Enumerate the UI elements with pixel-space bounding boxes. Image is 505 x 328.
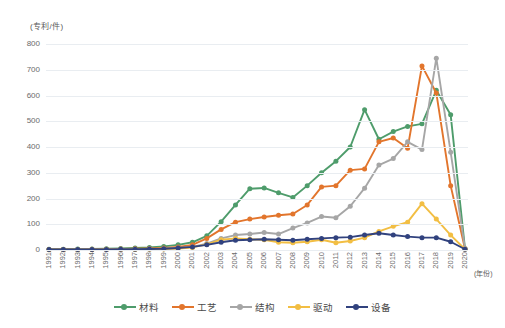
data-point: [362, 166, 367, 171]
data-point: [333, 183, 338, 188]
x-axis-tick-label: 1991: [45, 252, 53, 269]
data-point: [247, 232, 252, 237]
gridline: [46, 224, 468, 225]
legend-swatch-icon: [230, 303, 252, 312]
data-point: [448, 183, 453, 188]
x-axis-tick-label: 1998: [145, 252, 153, 269]
series-材料: [47, 88, 468, 252]
data-point: [305, 202, 310, 207]
data-point: [419, 201, 424, 206]
legend-label: 设备: [371, 300, 391, 314]
legend-item-设备[interactable]: 设备: [346, 300, 391, 314]
data-point: [405, 139, 410, 144]
x-axis-tick-label: 2012: [346, 252, 354, 269]
x-axis-tick-label: 2017: [418, 252, 426, 269]
data-point: [247, 186, 252, 191]
x-axis-tick-label: 2004: [231, 252, 239, 269]
x-axis-tick-label: 2003: [217, 252, 225, 269]
series-line: [49, 90, 465, 249]
y-axis-tick-label: 0: [10, 245, 40, 254]
data-point: [333, 215, 338, 220]
legend-item-驱动[interactable]: 驱动: [288, 300, 333, 314]
data-point: [262, 185, 267, 190]
data-point: [262, 237, 267, 242]
data-point: [319, 236, 324, 241]
series-line: [49, 66, 465, 250]
data-point: [448, 233, 453, 238]
x-axis-tick-label: 2016: [404, 252, 412, 269]
data-point: [333, 240, 338, 245]
x-axis-tick-label: 1993: [74, 252, 82, 269]
x-axis-tick-label: 2014: [375, 252, 383, 269]
data-point: [376, 163, 381, 168]
x-axis-tick-label: 2018: [432, 252, 440, 269]
gridline: [46, 250, 468, 251]
patent-trend-line-chart: (专利/件) (年份) 8007006005004003002001000 19…: [0, 0, 505, 328]
x-axis-tick-label: 2008: [289, 252, 297, 269]
y-axis-tick-label: 300: [10, 168, 40, 177]
x-axis-tick-label: 1999: [160, 252, 168, 269]
legend-item-材料[interactable]: 材料: [114, 300, 159, 314]
gridline: [46, 44, 468, 45]
data-point: [204, 236, 209, 241]
data-point: [376, 139, 381, 144]
x-axis-tick-label: 2001: [188, 252, 196, 269]
data-point: [391, 135, 396, 140]
gridline: [46, 199, 468, 200]
x-axis-title: (年份): [474, 268, 493, 278]
data-point: [305, 183, 310, 188]
data-point: [391, 129, 396, 134]
data-point: [434, 217, 439, 222]
x-axis-tick-label: 2005: [246, 252, 254, 269]
data-point: [434, 235, 439, 240]
series-line: [49, 204, 465, 250]
plot-area: [46, 44, 468, 250]
data-point: [333, 159, 338, 164]
data-point: [405, 234, 410, 239]
data-point: [348, 204, 353, 209]
legend-item-结构[interactable]: 结构: [230, 300, 275, 314]
x-axis-tick-label: 2002: [203, 252, 211, 269]
legend-label: 材料: [139, 300, 159, 314]
data-point: [305, 237, 310, 242]
data-point: [391, 233, 396, 238]
data-point: [247, 237, 252, 242]
x-axis-tick-label: 2015: [389, 252, 397, 269]
data-point: [247, 217, 252, 222]
legend-swatch-icon: [346, 303, 368, 312]
data-point: [290, 226, 295, 231]
x-axis-tick-label: 1994: [88, 252, 96, 269]
legend-label: 工艺: [197, 300, 217, 314]
data-point: [362, 186, 367, 191]
data-point: [219, 240, 224, 245]
data-point: [448, 112, 453, 117]
y-axis-tick-label: 400: [10, 142, 40, 151]
data-point: [219, 227, 224, 232]
data-point: [448, 239, 453, 244]
x-axis-tick-label: 2011: [332, 252, 340, 268]
x-axis-tick-labels: 1991199219931994199519961997199819992000…: [46, 252, 468, 292]
legend-item-工艺[interactable]: 工艺: [172, 300, 217, 314]
gridline: [46, 121, 468, 122]
data-point: [290, 238, 295, 243]
y-axis-tick-label: 100: [10, 219, 40, 228]
data-point: [419, 63, 424, 68]
gridline: [46, 173, 468, 174]
data-point: [348, 235, 353, 240]
series-line: [49, 233, 465, 249]
x-axis-tick-label: 2013: [361, 252, 369, 269]
data-point: [276, 190, 281, 195]
y-axis-tick-label: 500: [10, 116, 40, 125]
x-axis-tick-label: 2010: [318, 252, 326, 269]
data-point: [233, 202, 238, 207]
data-point: [376, 231, 381, 236]
data-point: [362, 107, 367, 112]
data-point: [262, 230, 267, 235]
legend-swatch-icon: [288, 303, 310, 312]
chart-legend: 材料工艺结构驱动设备: [0, 300, 505, 314]
data-point: [276, 213, 281, 218]
gridline: [46, 147, 468, 148]
x-axis-tick-label: 2019: [447, 252, 455, 269]
data-point: [405, 124, 410, 129]
data-point: [319, 184, 324, 189]
